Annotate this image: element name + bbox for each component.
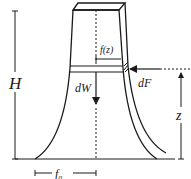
weight-label: dW <box>75 81 92 95</box>
base-half-width-dimension: f₀ <box>35 167 96 179</box>
elevation-label: z <box>175 108 182 123</box>
weight-arrow: dW <box>75 72 96 104</box>
profile-dimension: f(z) <box>96 44 121 62</box>
height-label: H <box>8 74 23 93</box>
force-label: dF <box>138 76 152 90</box>
base-half-width-label: f₀ <box>55 167 63 179</box>
elevation-dimension: z <box>175 73 184 159</box>
height-dimension: H <box>8 11 23 159</box>
slice-element <box>70 62 129 72</box>
profile-label: f(z) <box>100 44 114 56</box>
tower-diagram: H f(z) dW dF <box>0 0 191 179</box>
